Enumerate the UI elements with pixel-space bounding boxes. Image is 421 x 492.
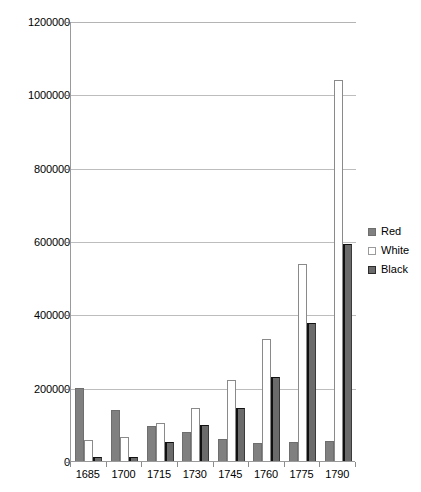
- y-axis-tick-label: 1000000: [6, 90, 70, 101]
- bar-white-1745: [227, 380, 236, 461]
- y-axis-tick-label: 400000: [6, 310, 70, 321]
- bar-white-1700: [120, 437, 129, 461]
- bar-group: [147, 21, 174, 461]
- bar-white-1715: [156, 423, 165, 461]
- legend-item-label: Black: [381, 264, 408, 275]
- red-swatch-icon: [368, 228, 376, 236]
- plot-area: [70, 22, 355, 462]
- bar-black-1790: [343, 244, 352, 461]
- y-axis-tick-label: 800000: [6, 164, 70, 175]
- bar-white-1760: [262, 339, 271, 461]
- bar-white-1730: [191, 408, 200, 461]
- bar-white-1685: [84, 440, 93, 461]
- legend-item-white[interactable]: White: [368, 241, 421, 260]
- bar-chart: 120000010000008000006000004000002000000 …: [0, 0, 421, 492]
- x-axis-tick-label: 1700: [103, 468, 143, 480]
- bar-red-1685: [75, 388, 84, 461]
- x-axis-tick: [213, 462, 214, 467]
- bar-red-1700: [111, 410, 120, 461]
- bar-white-1775: [298, 264, 307, 461]
- bar-black-1730: [200, 425, 209, 461]
- bar-red-1775: [289, 442, 298, 461]
- bar-group: [111, 21, 138, 461]
- bar-red-1790: [325, 441, 334, 461]
- black-swatch-icon: [368, 266, 376, 274]
- y-axis-tick: [64, 95, 69, 96]
- bar-group: [75, 21, 102, 461]
- bar-black-1685: [93, 457, 102, 461]
- x-axis-tick-label: 1715: [139, 468, 179, 480]
- bar-group: [325, 21, 352, 461]
- x-axis-tick: [106, 462, 107, 467]
- y-axis-tick: [64, 462, 69, 463]
- y-axis-tick: [64, 242, 69, 243]
- bar-black-1775: [307, 323, 316, 461]
- x-axis-tick-label: 1775: [282, 468, 322, 480]
- y-axis-tick: [64, 169, 69, 170]
- legend-item-red[interactable]: Red: [368, 222, 421, 241]
- legend-item-label: White: [381, 245, 409, 256]
- bar-black-1760: [271, 377, 280, 461]
- bar-red-1730: [182, 432, 191, 461]
- legend: RedWhiteBlack: [368, 222, 421, 279]
- y-axis-tick-label: 600000: [6, 237, 70, 248]
- white-swatch-icon: [368, 247, 376, 255]
- x-axis-tick-label: 1745: [210, 468, 250, 480]
- x-axis-tick: [70, 462, 71, 467]
- legend-item-black[interactable]: Black: [368, 260, 421, 279]
- x-axis-tick-label: 1790: [317, 468, 357, 480]
- x-axis-tick-label: 1760: [246, 468, 286, 480]
- y-axis-tick: [64, 389, 69, 390]
- bar-group: [289, 21, 316, 461]
- x-axis: 16851700171517301745176017751790: [70, 462, 355, 492]
- y-axis: 120000010000008000006000004000002000000: [0, 0, 70, 492]
- y-axis-tick: [64, 315, 69, 316]
- bar-black-1715: [165, 442, 174, 461]
- bar-white-1790: [334, 80, 343, 461]
- bar-red-1745: [218, 439, 227, 461]
- bar-red-1760: [253, 443, 262, 461]
- bar-group: [253, 21, 280, 461]
- x-axis-tick: [177, 462, 178, 467]
- bar-red-1715: [147, 426, 156, 461]
- y-axis-tick-label: 0: [6, 457, 70, 468]
- bar-group: [182, 21, 209, 461]
- x-axis-tick-label: 1730: [175, 468, 215, 480]
- legend-item-label: Red: [381, 226, 401, 237]
- bar-black-1700: [129, 457, 138, 461]
- bar-black-1745: [236, 408, 245, 461]
- x-axis-tick: [284, 462, 285, 467]
- x-axis-tick: [141, 462, 142, 467]
- x-axis-tick: [355, 462, 356, 467]
- y-axis-tick-label: 1200000: [6, 17, 70, 28]
- x-axis-tick: [319, 462, 320, 467]
- x-axis-tick-label: 1685: [68, 468, 108, 480]
- x-axis-tick: [248, 462, 249, 467]
- bar-group: [218, 21, 245, 461]
- y-axis-tick: [64, 22, 69, 23]
- y-axis-tick-label: 200000: [6, 384, 70, 395]
